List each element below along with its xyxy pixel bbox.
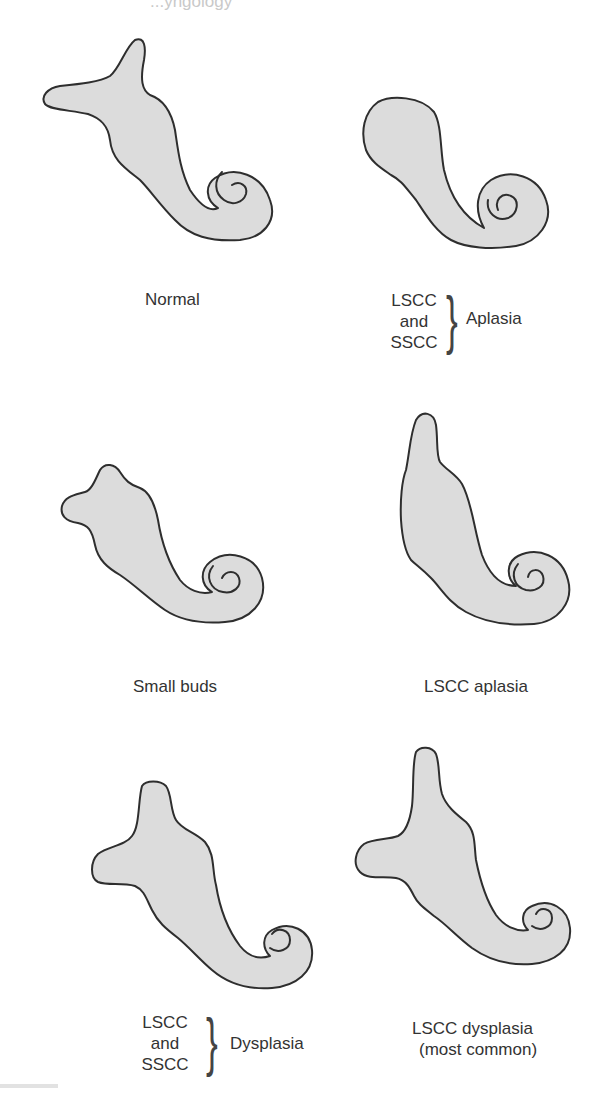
panel-lscc-sscc-dysplasia: LSCC and SSCC } Dysplasia <box>0 750 306 1104</box>
label-stack-aplasia: LSCC and SSCC <box>389 290 439 353</box>
label-most-common: (most common) <box>419 1039 537 1060</box>
scale-bar-fragment <box>0 1084 58 1088</box>
brace-icon: } <box>446 288 458 352</box>
panel-normal: Normal <box>0 0 300 300</box>
inner-ear-lscc-dysplasia-shape <box>306 740 612 980</box>
label-aplasia: Aplasia <box>466 309 522 329</box>
label-and: and <box>389 311 439 332</box>
panel-lscc-aplasia: LSCC aplasia <box>306 380 612 700</box>
inner-ear-normal-shape <box>0 0 300 300</box>
label-small-buds: Small buds <box>133 676 217 697</box>
label-sscc: SSCC <box>389 332 439 353</box>
panel-small-buds: Small buds <box>0 380 300 700</box>
panel-lscc-sscc-aplasia: LSCC and SSCC } Aplasia <box>306 0 612 360</box>
label-dysplasia: Dysplasia <box>230 1034 304 1054</box>
label-lscc-dysplasia: LSCC dysplasia <box>412 1018 533 1039</box>
label-and: and <box>140 1033 190 1054</box>
label-lscc: LSCC <box>389 290 439 311</box>
brace-icon: } <box>206 1010 218 1074</box>
label-stack-dysplasia: LSCC and SSCC <box>140 1012 190 1075</box>
panel-lscc-dysplasia: LSCC dysplasia (most common) <box>306 740 612 1104</box>
inner-ear-lscc-aplasia-shape <box>306 380 612 660</box>
label-lscc-aplasia: LSCC aplasia <box>424 676 528 697</box>
label-sscc: SSCC <box>140 1054 190 1075</box>
label-normal: Normal <box>145 289 200 310</box>
inner-ear-aplasia-shape <box>306 0 612 300</box>
inner-ear-small-buds-shape <box>0 380 300 660</box>
inner-ear-dysplasia-shape <box>0 750 306 990</box>
label-lscc: LSCC <box>140 1012 190 1033</box>
